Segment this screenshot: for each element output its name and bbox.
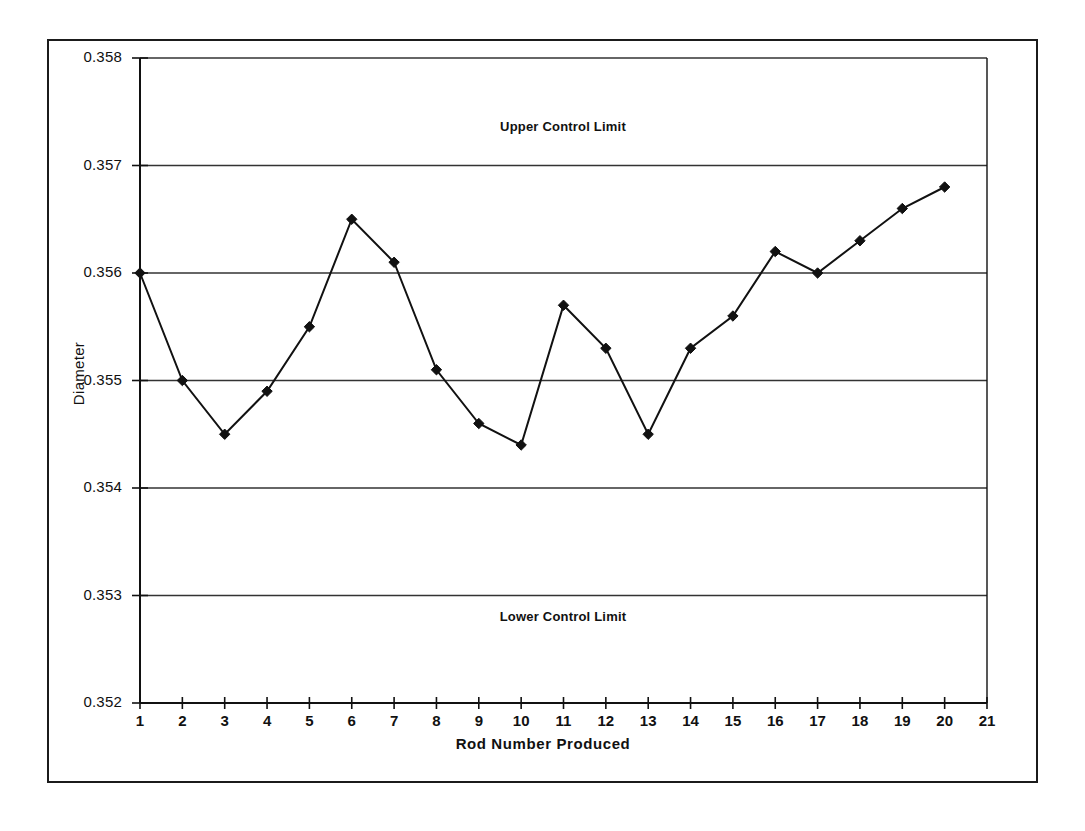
y-tick-label: 0.355 bbox=[52, 371, 122, 388]
x-tick-label: 19 bbox=[885, 712, 919, 729]
x-tick-label: 8 bbox=[419, 712, 453, 729]
data-series-line bbox=[140, 187, 945, 445]
data-point-marker bbox=[939, 182, 949, 192]
x-axis-title: Rod Number Produced bbox=[343, 735, 743, 752]
y-tick-label: 0.356 bbox=[52, 263, 122, 280]
y-tick-label: 0.352 bbox=[52, 693, 122, 710]
x-tick-label: 7 bbox=[377, 712, 411, 729]
x-tick-label: 5 bbox=[292, 712, 326, 729]
x-tick-label: 16 bbox=[758, 712, 792, 729]
data-point-marker bbox=[643, 429, 653, 439]
x-tick-label: 12 bbox=[589, 712, 623, 729]
lower-control-limit-label: Lower Control Limit bbox=[413, 609, 713, 624]
x-tick-label: 13 bbox=[631, 712, 665, 729]
chart-figure: 0.3520.3530.3540.3550.3560.3570.358 1234… bbox=[0, 0, 1085, 831]
x-tick-label: 11 bbox=[547, 712, 581, 729]
y-tick-label: 0.353 bbox=[52, 586, 122, 603]
x-tick-label: 15 bbox=[716, 712, 750, 729]
upper-control-limit-label: Upper Control Limit bbox=[413, 119, 713, 134]
x-tick-label: 1 bbox=[123, 712, 157, 729]
x-tick-label: 3 bbox=[208, 712, 242, 729]
x-tick-label: 2 bbox=[165, 712, 199, 729]
data-point-markers-group bbox=[135, 182, 950, 450]
x-tick-label: 18 bbox=[843, 712, 877, 729]
y-tick-label: 0.358 bbox=[52, 48, 122, 65]
y-tick-label: 0.357 bbox=[52, 156, 122, 173]
x-tick-label: 9 bbox=[462, 712, 496, 729]
x-tick-label: 14 bbox=[674, 712, 708, 729]
x-tick-label: 17 bbox=[801, 712, 835, 729]
x-tick-label: 4 bbox=[250, 712, 284, 729]
data-point-marker bbox=[516, 440, 526, 450]
data-point-marker bbox=[770, 246, 780, 256]
x-tick-marks-group bbox=[140, 697, 987, 709]
x-tick-label: 20 bbox=[928, 712, 962, 729]
y-tick-label: 0.354 bbox=[52, 478, 122, 495]
y-axis-title: Diameter bbox=[70, 294, 87, 454]
gridlines-group bbox=[140, 58, 987, 703]
x-tick-label: 21 bbox=[970, 712, 1004, 729]
data-point-marker bbox=[135, 268, 145, 278]
x-tick-label: 10 bbox=[504, 712, 538, 729]
data-point-marker bbox=[304, 322, 314, 332]
x-tick-label: 6 bbox=[335, 712, 369, 729]
